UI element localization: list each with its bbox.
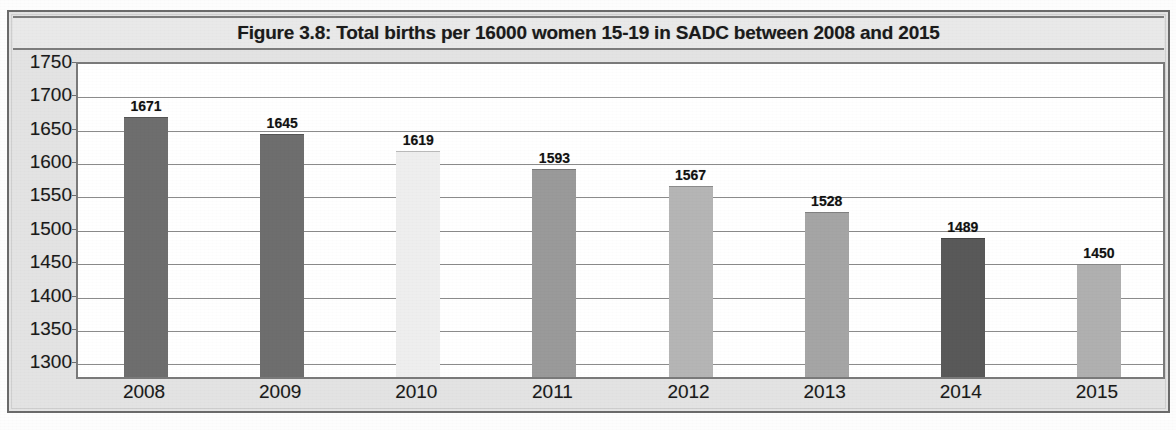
bar	[396, 151, 440, 377]
x-axis-tick-label: 2008	[123, 381, 165, 403]
chart-title: Figure 3.8: Total births per 16000 women…	[237, 22, 939, 44]
y-axis-tick-label: 1600	[14, 151, 72, 173]
bar-value-label: 1567	[675, 167, 706, 183]
scanned-page: Figure 3.8: Total births per 16000 women…	[0, 0, 1176, 430]
x-axis-tick-label: 2010	[395, 381, 437, 403]
y-axis-tick-label: 1400	[14, 285, 72, 307]
bar-value-label: 1619	[403, 132, 434, 148]
y-axis-tick-label: 1750	[14, 51, 72, 73]
bar-group: 1671	[78, 64, 214, 377]
x-axis-tick-label: 2013	[804, 381, 846, 403]
bar-group: 1645	[214, 64, 350, 377]
bar-value-label: 1593	[539, 150, 570, 166]
bar	[669, 186, 713, 377]
x-axis-tick-label: 2012	[667, 381, 709, 403]
x-axis-tick-label: 2014	[940, 381, 982, 403]
bar-group: 1593	[486, 64, 622, 377]
bar	[260, 134, 304, 377]
bar-value-label: 1450	[1083, 245, 1114, 261]
bar-value-label: 1528	[811, 193, 842, 209]
bar-value-label: 1645	[267, 115, 298, 131]
x-axis-labels: 20082009201020112012201320142015	[76, 381, 1165, 411]
y-axis-tick-label: 1450	[14, 251, 72, 273]
bar-group: 1619	[350, 64, 486, 377]
x-axis-tick-label: 2015	[1076, 381, 1118, 403]
bar	[124, 117, 168, 377]
y-axis-tick-label: 1650	[14, 118, 72, 140]
y-axis-tick-label: 1550	[14, 184, 72, 206]
chart-title-band: Figure 3.8: Total births per 16000 women…	[13, 16, 1164, 50]
y-axis-labels: 1750170016501600155015001450140013501300	[13, 62, 72, 379]
y-axis-tick-label: 1300	[14, 351, 72, 373]
y-axis-tick-label: 1700	[14, 84, 72, 106]
bar-group: 1489	[895, 64, 1031, 377]
bar-value-label: 1671	[130, 98, 161, 114]
plot-area: 16711645161915931567152814891450	[76, 62, 1165, 379]
page-footnote	[14, 419, 914, 430]
y-axis-tick-label: 1500	[14, 218, 72, 240]
x-axis-tick-label: 2009	[259, 381, 301, 403]
bar-group: 1567	[623, 64, 759, 377]
bar	[805, 212, 849, 377]
bar-group: 1528	[759, 64, 895, 377]
bar	[941, 238, 985, 377]
chart-figure-frame: Figure 3.8: Total births per 16000 women…	[7, 10, 1170, 413]
bar	[532, 169, 576, 377]
bar-group: 1450	[1031, 64, 1167, 377]
x-axis-tick-label: 2011	[532, 381, 573, 403]
bar-series: 16711645161915931567152814891450	[78, 64, 1163, 377]
bar-value-label: 1489	[947, 219, 978, 235]
y-axis-tick-label: 1350	[14, 318, 72, 340]
bar	[1077, 264, 1121, 377]
